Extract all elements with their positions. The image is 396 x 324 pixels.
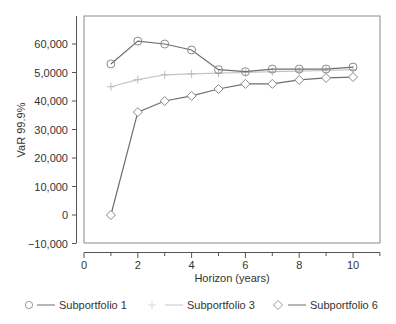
diamond-marker [295, 75, 304, 84]
diamond-marker [322, 73, 331, 82]
y-tick-label: 20,000 [34, 152, 68, 164]
x-axis-label: Horizon (years) [194, 272, 269, 284]
series-subportfolio-6 [106, 73, 357, 220]
diamond-marker [214, 85, 223, 94]
x-tick-label: 8 [296, 259, 302, 271]
circle-marker-icon [25, 301, 32, 308]
legend-label: Subportfolio 1 [59, 299, 127, 311]
diamond-marker [349, 73, 358, 82]
chart: 60,0005,000040,00030,00020,00010,0000−10… [0, 0, 396, 324]
x-axis-ticks: 0246810 [81, 253, 380, 272]
diamond-marker [160, 97, 169, 106]
diamond-marker-icon [274, 301, 283, 310]
plus-marker-icon [148, 301, 156, 309]
circle-marker [241, 68, 249, 76]
plus-marker [188, 70, 196, 78]
circle-marker [107, 60, 115, 68]
legend-item-subportfolio-1: Subportfolio 1 [25, 299, 126, 311]
circle-marker [161, 40, 169, 48]
legend: Subportfolio 1 Subportfolio 3 Subportfol… [25, 299, 377, 311]
legend-label: Subportfolio 6 [310, 299, 378, 311]
y-tick-label: 10,000 [34, 181, 68, 193]
diamond-marker [241, 79, 250, 88]
y-axis-ticks: 60,0005,000040,00030,00020,00010,0000−10… [28, 38, 77, 250]
circle-marker [322, 65, 330, 73]
legend-item-subportfolio-6: Subportfolio 6 [274, 299, 378, 311]
diamond-marker [187, 91, 196, 100]
y-tick-label: 40,000 [34, 95, 68, 107]
circle-marker [215, 66, 223, 74]
y-tick-label: 5,0000 [34, 67, 68, 79]
x-tick-label: 6 [242, 259, 248, 271]
circle-marker [134, 37, 142, 45]
circle-marker [349, 63, 357, 71]
plus-marker [161, 71, 169, 79]
plus-marker [134, 76, 142, 84]
x-tick-label: 10 [347, 259, 359, 271]
y-tick-label: 60,000 [34, 38, 68, 50]
series-line [111, 77, 353, 215]
y-tick-label: 30,000 [34, 124, 68, 136]
y-tick-label: −10,000 [28, 238, 68, 250]
x-tick-label: 0 [81, 259, 87, 271]
circle-marker [268, 65, 276, 73]
circle-marker [188, 46, 196, 54]
plus-marker [107, 83, 115, 91]
legend-item-subportfolio-3: Subportfolio 3 [148, 299, 255, 311]
y-axis-label: VaR 99.9% [15, 102, 27, 157]
circle-marker [295, 65, 303, 73]
series-subportfolio-1 [107, 37, 357, 75]
y-tick-label: 0 [62, 209, 68, 221]
x-tick-label: 2 [135, 259, 141, 271]
plot-frame [84, 16, 380, 243]
legend-label: Subportfolio 3 [187, 299, 255, 311]
x-tick-label: 4 [189, 259, 195, 271]
diamond-marker [268, 79, 277, 88]
series-line [111, 41, 353, 71]
series-layer [106, 37, 357, 219]
diamond-marker [106, 211, 115, 220]
diamond-marker [133, 108, 142, 117]
